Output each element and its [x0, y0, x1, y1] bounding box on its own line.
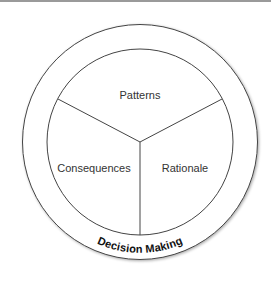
- decision-diagram: Patterns Consequences Rationale Decision…: [0, 0, 271, 283]
- segment-rationale: Rationale: [162, 162, 208, 174]
- segment-consequences: Consequences: [57, 162, 131, 174]
- segment-patterns: Patterns: [120, 89, 161, 101]
